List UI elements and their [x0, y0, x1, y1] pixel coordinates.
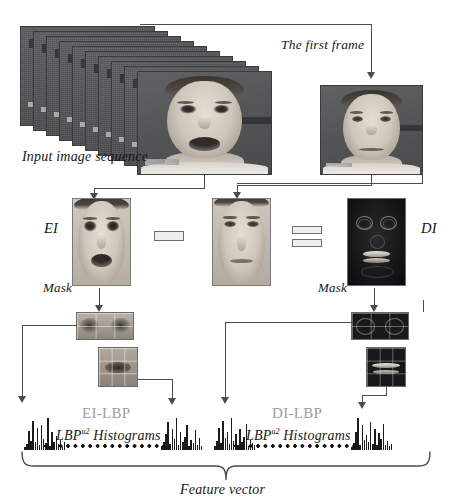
ei-image — [72, 198, 131, 286]
connector-first-frame-horizontal — [140, 24, 372, 25]
arrow-ei-hist-right — [168, 398, 176, 405]
di-image — [347, 198, 406, 286]
di-hist-base: LBP — [246, 428, 272, 443]
arrow-di-hist-right — [358, 402, 366, 409]
arrow-to-first-frame — [367, 72, 375, 79]
ei-lbp-label: EI-LBP — [82, 406, 130, 421]
connector-di-feed — [423, 300, 424, 312]
arrow-di-mask — [370, 305, 378, 312]
feature-vector-label: Feature vector — [180, 483, 265, 497]
di-lbp-label: DI-LBP — [272, 406, 322, 421]
sequence-frame-front — [137, 71, 272, 175]
ei-histograms-label: LBPu2 Histograms — [56, 428, 161, 443]
di-hist-tail: Histograms — [280, 428, 351, 443]
di-hist-sup: u2 — [272, 427, 280, 436]
connector-di-eyes-down — [225, 322, 226, 398]
ellipsis-ei — [44, 444, 166, 448]
connector-di-down — [422, 172, 423, 184]
connector-ei-mouth-right — [138, 379, 173, 380]
minus-symbol — [154, 231, 184, 241]
first-frame-label: The first frame — [281, 38, 364, 52]
histogram-di-last — [351, 418, 393, 450]
connector-di-mouth-left — [362, 395, 387, 396]
connector-ei-eyes-left — [22, 325, 77, 326]
ei-label: EI — [44, 221, 58, 236]
connector-seq-down — [204, 175, 205, 189]
feature-vector-brace — [20, 450, 432, 482]
connector-first-frame-vertical — [371, 24, 372, 72]
arrow-di-hist-left — [221, 397, 229, 404]
di-mouth-patch — [366, 347, 406, 387]
mask-left-label: Mask — [43, 281, 72, 294]
ei-hist-sup: u2 — [82, 427, 90, 436]
figure-root: Input image sequence The first frame EI — [0, 0, 452, 501]
connector-ei-mouth-down — [172, 379, 173, 399]
equals-symbol — [292, 226, 322, 247]
connector-seq-to-ei — [94, 188, 205, 189]
connector-top-to-di — [237, 183, 423, 184]
di-eyes-patch — [351, 312, 409, 340]
first-frame-image — [320, 85, 423, 175]
connector-di-mask — [374, 288, 375, 306]
arrow-ei-hist-left — [18, 396, 26, 403]
connector-di-eyes-left — [225, 322, 352, 323]
connector-ei-mask — [99, 288, 100, 306]
ei-mouth-patch — [98, 347, 138, 387]
neutral-face-image — [212, 198, 271, 286]
arrow-ei-mask — [95, 305, 103, 312]
ei-hist-base: LBP — [56, 428, 82, 443]
di-histograms-label: LBPu2 Histograms — [246, 428, 351, 443]
connector-ei-eyes-down — [22, 325, 23, 397]
connector-first-to-neutral — [237, 185, 372, 186]
ei-eyes-patch — [76, 312, 134, 340]
input-sequence-label: Input image sequence — [22, 150, 148, 164]
histogram-ei-last — [161, 418, 203, 450]
di-label: DI — [421, 221, 437, 236]
ellipsis-di — [234, 444, 356, 448]
ei-hist-tail: Histograms — [90, 428, 161, 443]
mask-right-label: Mask — [318, 281, 347, 294]
